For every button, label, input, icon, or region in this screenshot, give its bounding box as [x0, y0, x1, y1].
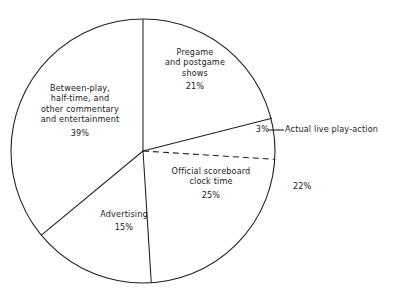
pie-chart: Pregame and postgame shows 21% Between-p…: [0, 0, 394, 292]
pie-chart-graphic: [0, 0, 394, 292]
